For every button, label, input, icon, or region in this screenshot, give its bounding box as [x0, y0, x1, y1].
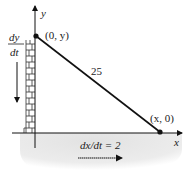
ladder-length-label: 25 [91, 65, 103, 77]
top-point [33, 33, 38, 38]
top-point-label: (0, y) [45, 29, 69, 42]
dy-dt-denominator: dt [10, 46, 20, 58]
x-axis-label: x [173, 136, 179, 148]
bottom-point-label: (x, 0) [150, 112, 174, 125]
dy-dt-numerator: dy [9, 31, 20, 43]
bottom-point [157, 129, 162, 134]
y-axis-label: y [40, 7, 46, 19]
brick-wall [24, 40, 35, 133]
ladder-diagram: y (0, y) 25 (x, 0) x dy dt dx/dt = 2 [0, 0, 189, 176]
ladder-line [36, 36, 160, 132]
dy-dt-rate: dy dt [8, 31, 24, 102]
dx-dt-label: dx/dt = 2 [80, 139, 121, 151]
